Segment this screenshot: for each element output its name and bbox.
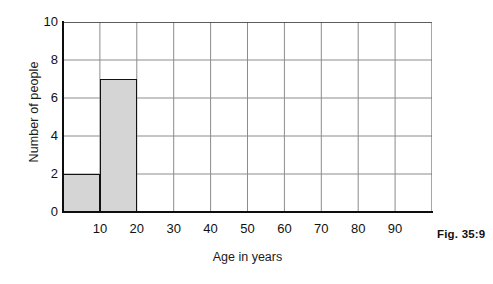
x-tick-label: 20 [117, 222, 157, 236]
histogram-bar [100, 79, 137, 212]
y-tick-label: 8 [36, 53, 58, 66]
histogram-bar [63, 174, 100, 212]
x-axis-tick-labels: 102030405060708090 [63, 222, 432, 242]
y-tick-label: 4 [36, 129, 58, 142]
y-tick-label: 0 [36, 205, 58, 218]
x-tick-label: 30 [154, 222, 194, 236]
x-tick-label: 10 [80, 222, 120, 236]
y-axis-tick-labels: 0246810 [36, 0, 58, 284]
bars-layer [63, 22, 432, 212]
x-tick-label: 80 [338, 222, 378, 236]
plot-area [63, 22, 432, 212]
x-axis-title: Age in years [63, 250, 432, 264]
y-tick-label: 6 [36, 91, 58, 104]
y-tick-label: 2 [36, 167, 58, 180]
y-axis-line [62, 21, 64, 213]
histogram-figure: Number of people 0246810 102030405060708… [0, 0, 493, 284]
x-tick-label: 60 [264, 222, 304, 236]
x-tick-label: 90 [375, 222, 415, 236]
x-tick-label: 70 [301, 222, 341, 236]
x-axis-line [62, 211, 433, 213]
x-tick-label: 40 [191, 222, 231, 236]
figure-caption: Fig. 35:9 [437, 228, 485, 240]
y-tick-label: 10 [36, 15, 58, 28]
x-tick-label: 50 [228, 222, 268, 236]
